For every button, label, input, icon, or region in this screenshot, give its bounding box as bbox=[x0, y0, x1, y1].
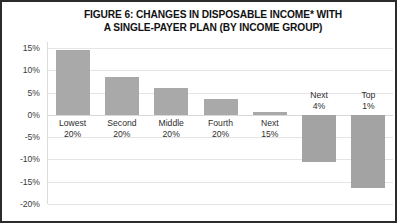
bar-top-1 bbox=[351, 115, 385, 188]
category-label-line: 20% bbox=[143, 129, 199, 140]
y-axis-tick-label: -20% bbox=[20, 199, 40, 209]
x-axis-category-label: Top1% bbox=[340, 90, 396, 112]
category-label-line: 20% bbox=[45, 129, 101, 140]
category-label-line: Lowest bbox=[45, 118, 101, 129]
bar-second-20 bbox=[105, 77, 139, 115]
gridline bbox=[48, 70, 393, 71]
bar-lowest-20 bbox=[56, 50, 90, 115]
x-axis-category-label: Fourth20% bbox=[193, 118, 249, 140]
y-axis: 15%10%5%0%-5%-10%-15%-20% bbox=[2, 42, 46, 204]
category-label-line: Next bbox=[291, 90, 347, 101]
x-axis-category-label: Lowest20% bbox=[45, 118, 101, 140]
gridline bbox=[48, 204, 393, 205]
plot-area: Lowest20%Second20%Middle20%Fourth20%Next… bbox=[48, 42, 393, 204]
bar-fourth-20 bbox=[204, 99, 238, 115]
y-axis-tick-label: 10% bbox=[23, 65, 40, 75]
category-label-line: Next bbox=[242, 118, 298, 129]
x-axis-category-label: Next4% bbox=[291, 90, 347, 112]
chart-title-line-2: A SINGLE-PAYER PLAN (BY INCOME GROUP) bbox=[48, 21, 378, 34]
bar-next-15 bbox=[253, 112, 287, 115]
y-axis-tick-label: 15% bbox=[23, 43, 40, 53]
x-axis-category-label: Middle20% bbox=[143, 118, 199, 140]
x-axis-category-label: Next15% bbox=[242, 118, 298, 140]
x-axis-category-label: Second20% bbox=[94, 118, 150, 140]
category-label-line: 1% bbox=[340, 101, 396, 112]
category-label-line: 15% bbox=[242, 129, 298, 140]
gridline bbox=[48, 159, 393, 160]
gridline bbox=[48, 115, 393, 116]
y-axis-tick-label: 0% bbox=[28, 110, 40, 120]
figure-container: FIGURE 6: CHANGES IN DISPOSABLE INCOME* … bbox=[0, 0, 397, 223]
bar-middle-20 bbox=[154, 88, 188, 115]
category-label-line: 20% bbox=[193, 129, 249, 140]
category-label-line: Second bbox=[94, 118, 150, 129]
category-label-line: 20% bbox=[94, 129, 150, 140]
y-axis-tick-label: 5% bbox=[28, 88, 40, 98]
category-label-line: Top bbox=[340, 90, 396, 101]
chart-title-line-1: FIGURE 6: CHANGES IN DISPOSABLE INCOME* … bbox=[48, 8, 378, 21]
category-label-line: Fourth bbox=[193, 118, 249, 129]
gridline bbox=[48, 182, 393, 183]
bar-next-4 bbox=[302, 115, 336, 162]
y-axis-tick-label: -10% bbox=[20, 154, 40, 164]
y-axis-tick-label: -15% bbox=[20, 177, 40, 187]
y-axis-tick-label: -5% bbox=[25, 132, 40, 142]
category-label-line: Middle bbox=[143, 118, 199, 129]
category-label-line: 4% bbox=[291, 101, 347, 112]
chart-title: FIGURE 6: CHANGES IN DISPOSABLE INCOME* … bbox=[48, 8, 378, 34]
gridline bbox=[48, 48, 393, 49]
